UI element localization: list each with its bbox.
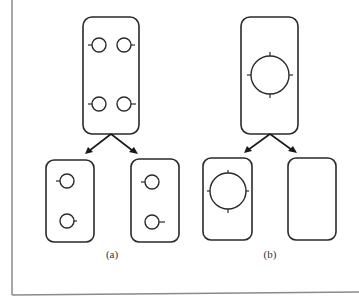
- cell-outline: [131, 159, 179, 242]
- panel-a-child-cell-left: [46, 160, 94, 242]
- panel-b-child-cell-right: [288, 158, 336, 240]
- cell-outline: [83, 17, 139, 134]
- diagram-canvas: (a): [0, 0, 359, 301]
- arrow-left: [89, 134, 111, 151]
- panel-b-child-cell-left: [203, 158, 252, 240]
- panel-b-arrows: [244, 134, 297, 153]
- arrow-left: [248, 134, 270, 150]
- panel-a-child-cell-right: [131, 159, 179, 242]
- cell-outline: [46, 160, 94, 242]
- panel-b-label: (b): [264, 248, 277, 261]
- panel-a-parent-cell: [83, 17, 139, 134]
- arrow-right: [270, 134, 292, 150]
- panel-b-parent-cell: [241, 17, 298, 134]
- arrow-right: [111, 134, 133, 151]
- arrowhead-right: [288, 146, 297, 153]
- frame-bottom-border: [12, 292, 359, 295]
- panel-b: (b): [203, 17, 336, 261]
- panel-a: (a): [46, 17, 179, 261]
- cell-outline-empty: [288, 158, 336, 240]
- panel-a-arrows: [85, 134, 138, 154]
- panel-a-label: (a): [106, 248, 119, 261]
